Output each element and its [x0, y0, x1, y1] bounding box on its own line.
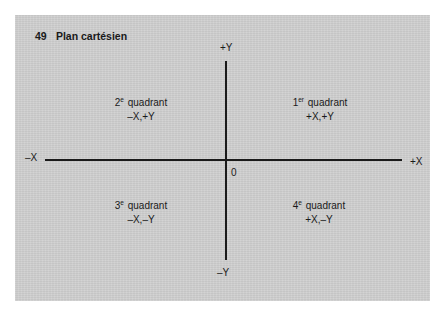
y-negative-label: –Y — [217, 267, 229, 279]
quadrant-4-signs: +X,–Y — [285, 213, 353, 227]
figure-title-text: Plan cartésien — [56, 30, 127, 42]
origin-label: 0 — [231, 167, 237, 179]
x-axis-line — [45, 159, 402, 161]
quadrant-2-label: 2e quadrant –X,+Y — [108, 96, 174, 124]
quadrant-4-label: 4e quadrant +X,–Y — [285, 199, 353, 227]
quadrant-3-signs: –X,–Y — [108, 213, 174, 227]
x-negative-label: –X — [25, 152, 37, 164]
quadrant-2-signs: –X,+Y — [108, 110, 174, 124]
quadrant-3-suffix: e — [120, 199, 124, 206]
quadrant-4-suffix: e — [298, 199, 302, 206]
quadrant-2-word: quadrant — [128, 97, 167, 108]
figure-number: 49 — [35, 30, 53, 42]
x-positive-label: +X — [410, 156, 423, 168]
quadrant-4-word: quadrant — [306, 200, 345, 211]
quadrant-1-word: quadrant — [308, 97, 347, 108]
quadrant-2-suffix: e — [120, 96, 124, 103]
y-positive-label: +Y — [220, 42, 233, 54]
quadrant-3-label: 3e quadrant –X,–Y — [108, 199, 174, 227]
quadrant-3-word: quadrant — [128, 200, 167, 211]
quadrant-1-suffix: er — [298, 96, 304, 103]
figure-title: 49 Plan cartésien — [35, 30, 127, 42]
quadrant-1-label: 1er quadrant +X,+Y — [285, 96, 355, 124]
diagram-panel — [15, 15, 430, 301]
quadrant-1-signs: +X,+Y — [285, 110, 355, 124]
y-axis-line — [225, 61, 227, 260]
